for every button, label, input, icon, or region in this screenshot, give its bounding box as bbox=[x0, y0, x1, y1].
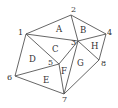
edge-6-1 bbox=[15, 34, 26, 76]
vertex-label-8: 8 bbox=[101, 59, 106, 68]
vertex-label-4: 4 bbox=[107, 28, 112, 37]
edge-7-6 bbox=[15, 76, 64, 94]
diagram-canvas: ABCDEFGH 12345678 bbox=[0, 0, 118, 108]
vertex-label-2: 2 bbox=[71, 5, 76, 14]
vertex-label-1: 1 bbox=[18, 28, 23, 37]
face-label-f: F bbox=[61, 66, 67, 76]
edge-3-4 bbox=[78, 34, 106, 41]
face-label-b: B bbox=[80, 25, 86, 35]
face-label-e: E bbox=[43, 75, 49, 85]
face-label-d: D bbox=[29, 54, 36, 64]
face-label-c: C bbox=[52, 44, 59, 54]
edge-4-8 bbox=[99, 34, 106, 60]
face-label-g: G bbox=[77, 58, 84, 68]
vertex-label-6: 6 bbox=[7, 73, 12, 82]
triangulation-diagram: ABCDEFGH 12345678 bbox=[0, 0, 118, 108]
edge-2-4 bbox=[71, 15, 106, 34]
vertex-label-3: 3 bbox=[71, 38, 76, 47]
face-labels-group: ABCDEFGH bbox=[29, 24, 98, 85]
edge-1-2 bbox=[26, 15, 71, 34]
vertex-label-5: 5 bbox=[48, 58, 53, 67]
vertex-label-7: 7 bbox=[62, 95, 67, 104]
face-label-h: H bbox=[91, 41, 98, 51]
face-label-a: A bbox=[55, 24, 63, 34]
